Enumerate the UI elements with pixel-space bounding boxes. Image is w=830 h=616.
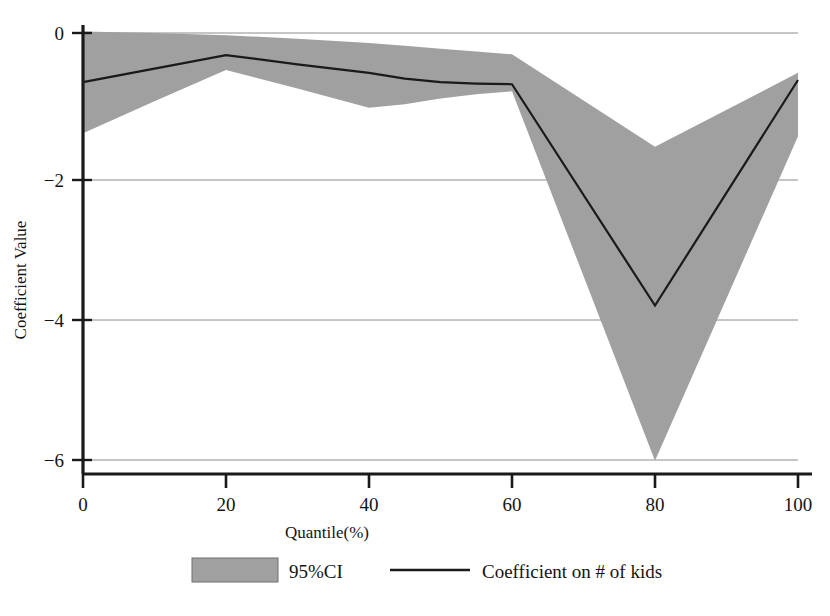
x-tick-label-80: 80 xyxy=(646,494,665,515)
chart-canvas: 0 −2 −4 −6 0 20 40 60 80 100 Quantile(%)… xyxy=(0,0,830,616)
y-tick-label-minus6: −6 xyxy=(44,450,64,471)
x-tick-label-20: 20 xyxy=(217,494,236,515)
x-tick-label-40: 40 xyxy=(360,494,379,515)
legend-label-coefficient: Coefficient on # of kids xyxy=(482,561,662,582)
chart-figure: 0 −2 −4 −6 0 20 40 60 80 100 Quantile(%)… xyxy=(0,0,830,616)
x-axis-title: Quantile(%) xyxy=(285,523,369,542)
x-axis: 0 20 40 60 80 100 xyxy=(78,474,812,515)
legend-swatch-ci xyxy=(192,558,278,582)
chart-legend: 95%CI Coefficient on # of kids xyxy=(192,558,662,582)
y-tick-label-minus2: −2 xyxy=(44,170,64,191)
y-tick-label-0: 0 xyxy=(55,23,65,44)
legend-label-ci: 95%CI xyxy=(289,561,343,582)
y-tick-label-minus4: −4 xyxy=(44,310,65,331)
x-tick-label-0: 0 xyxy=(78,494,88,515)
x-tick-label-100: 100 xyxy=(784,494,813,515)
x-tick-label-60: 60 xyxy=(503,494,522,515)
y-axis-title: Coefficient Value xyxy=(11,221,30,340)
